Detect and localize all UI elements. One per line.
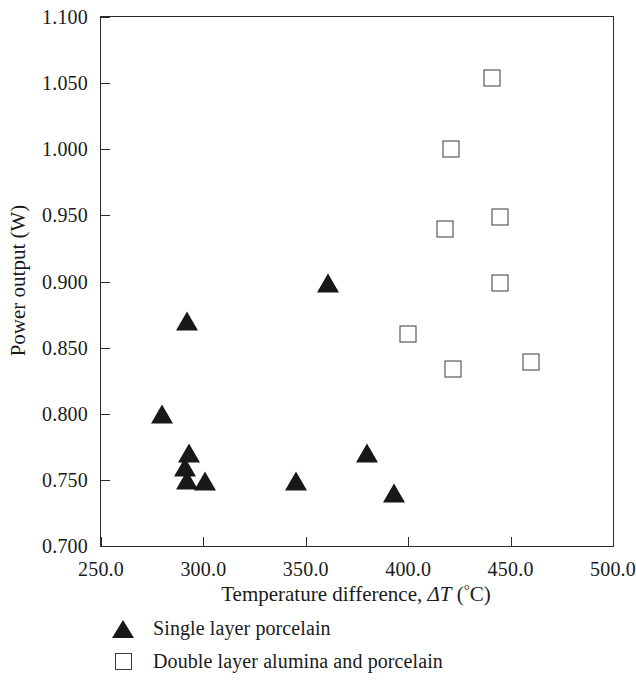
x-tick-mark bbox=[203, 537, 204, 546]
data-point-double-layer-alumina-and-porcelain bbox=[400, 326, 417, 343]
y-tick-mark bbox=[101, 480, 110, 481]
y-tick-label: 0.700 bbox=[42, 535, 88, 558]
data-point-single-layer-porcelain bbox=[151, 404, 173, 423]
x-tick-label: 500.0 bbox=[590, 558, 636, 581]
y-tick-mark bbox=[101, 546, 110, 547]
data-point-double-layer-alumina-and-porcelain bbox=[492, 208, 509, 225]
legend-item-single-layer-porcelain: Single layer porcelain bbox=[108, 612, 443, 645]
y-tick-mark bbox=[101, 348, 110, 349]
y-axis-title: Power output (W) bbox=[6, 16, 30, 545]
chart-legend: Single layer porcelain Double layer alum… bbox=[108, 612, 443, 678]
data-point-single-layer-porcelain bbox=[356, 444, 378, 463]
scatter-chart-figure: Power output (W) 0.7000.7500.8000.8500.9… bbox=[0, 0, 636, 683]
filled-triangle-marker-icon bbox=[108, 620, 138, 638]
x-axis-title-prefix: Temperature difference, bbox=[221, 582, 427, 606]
x-tick-label: 350.0 bbox=[283, 558, 329, 581]
legend-label: Single layer porcelain bbox=[153, 617, 331, 640]
data-point-single-layer-porcelain bbox=[285, 472, 307, 491]
open-square-marker-icon bbox=[108, 653, 138, 670]
y-tick-label: 1.050 bbox=[42, 72, 88, 95]
y-tick-mark bbox=[101, 83, 110, 84]
data-point-double-layer-alumina-and-porcelain bbox=[437, 220, 454, 237]
y-tick-label: 1.000 bbox=[42, 138, 88, 161]
x-tick-mark bbox=[408, 537, 409, 546]
x-axis-title-delta-t: ΔT bbox=[427, 582, 451, 606]
x-tick-label: 250.0 bbox=[78, 558, 124, 581]
data-point-single-layer-porcelain bbox=[176, 312, 198, 331]
y-tick-label: 0.750 bbox=[42, 468, 88, 491]
x-axis-title: Temperature difference, ΔT (°C) bbox=[100, 582, 612, 607]
plot-area: 0.7000.7500.8000.8500.9000.9501.0001.050… bbox=[100, 16, 614, 547]
data-point-single-layer-porcelain bbox=[383, 484, 405, 503]
data-point-single-layer-porcelain bbox=[194, 472, 216, 491]
y-tick-mark bbox=[101, 414, 110, 415]
y-tick-label: 0.800 bbox=[42, 402, 88, 425]
data-point-double-layer-alumina-and-porcelain bbox=[484, 69, 501, 86]
y-tick-mark bbox=[101, 17, 110, 18]
data-point-single-layer-porcelain bbox=[317, 273, 339, 292]
x-axis-title-celsius: C) bbox=[470, 582, 491, 606]
x-tick-mark bbox=[613, 537, 614, 546]
y-tick-label: 0.900 bbox=[42, 270, 88, 293]
x-tick-label: 450.0 bbox=[488, 558, 534, 581]
y-tick-label: 1.100 bbox=[42, 6, 88, 29]
x-tick-label: 300.0 bbox=[180, 558, 226, 581]
y-tick-mark bbox=[101, 215, 110, 216]
y-axis-title-text: Power output (W) bbox=[6, 205, 31, 357]
legend-label: Double layer alumina and porcelain bbox=[153, 650, 443, 673]
y-tick-label: 0.850 bbox=[42, 336, 88, 359]
x-tick-mark bbox=[511, 537, 512, 546]
y-tick-mark bbox=[101, 149, 110, 150]
data-point-double-layer-alumina-and-porcelain bbox=[523, 354, 540, 371]
data-point-double-layer-alumina-and-porcelain bbox=[492, 274, 509, 291]
y-tick-label: 0.950 bbox=[42, 204, 88, 227]
data-point-double-layer-alumina-and-porcelain bbox=[443, 141, 460, 158]
x-tick-mark bbox=[306, 537, 307, 546]
x-tick-label: 400.0 bbox=[385, 558, 431, 581]
data-point-double-layer-alumina-and-porcelain bbox=[445, 360, 462, 377]
legend-item-double-layer-alumina-and-porcelain: Double layer alumina and porcelain bbox=[108, 645, 443, 678]
x-axis-title-units-open: ( bbox=[452, 582, 464, 606]
x-tick-mark bbox=[101, 537, 102, 546]
y-tick-mark bbox=[101, 282, 110, 283]
